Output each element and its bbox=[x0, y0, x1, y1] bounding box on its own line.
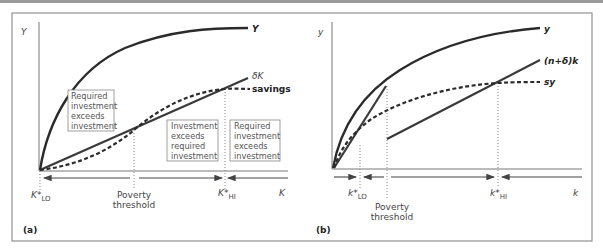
depreciation-line-label-a: δK bbox=[252, 71, 265, 81]
required-investment-line-b bbox=[387, 60, 540, 139]
svg-text:investment: investment bbox=[71, 121, 118, 131]
svg-text:exceeds: exceeds bbox=[234, 141, 268, 151]
svg-text:exceeds: exceeds bbox=[171, 131, 205, 141]
region-box-middle: Investment exceeds required investment bbox=[167, 120, 218, 161]
svg-text:investment: investment bbox=[234, 151, 281, 161]
x-axis-label-b: k bbox=[573, 188, 579, 198]
region-box-low: Required investment exceeds investment bbox=[68, 90, 118, 131]
svg-text:investment: investment bbox=[171, 151, 218, 161]
poverty-threshold-label2-b: threshold bbox=[371, 212, 413, 222]
savings-per-worker-label-b: sy bbox=[544, 77, 556, 87]
svg-text:investment: investment bbox=[234, 131, 281, 141]
poverty-trap-diagram: Y Y δK savings Required investment excee… bbox=[0, 0, 603, 252]
panel-label-b: (b) bbox=[316, 225, 331, 235]
k-hi-label-a: K*HI bbox=[218, 188, 236, 201]
savings-curve-label-a: savings bbox=[252, 84, 291, 94]
region-box-high: Required investment exceeds investment bbox=[230, 120, 281, 161]
x-axis-label-a: K bbox=[279, 188, 286, 198]
svg-text:Required: Required bbox=[234, 121, 270, 131]
output-per-worker-label-b: y bbox=[544, 24, 551, 34]
svg-text:investment: investment bbox=[71, 101, 118, 111]
svg-text:Investment: Investment bbox=[171, 121, 218, 131]
poverty-threshold-label-b: Poverty bbox=[375, 202, 410, 212]
y-axis-label-a: Y bbox=[21, 27, 28, 37]
k-hi-label-b: k*HI bbox=[490, 188, 507, 201]
poverty-threshold-label2-a: threshold bbox=[113, 200, 155, 210]
svg-text:exceeds: exceeds bbox=[71, 111, 105, 121]
output-curve-label-a: Y bbox=[252, 24, 260, 34]
svg-text:required: required bbox=[171, 141, 205, 151]
k-lo-label-a: K*LO bbox=[31, 190, 51, 203]
panel-b: y y (n+δ)k sy k*LO Poverty threshold k*H… bbox=[316, 22, 582, 235]
k-lo-label-b: k*LO bbox=[348, 188, 367, 201]
poverty-threshold-label-a: Poverty bbox=[117, 190, 152, 200]
panel-label-a: (a) bbox=[23, 225, 37, 235]
required-investment-label-b: (n+δ)k bbox=[544, 56, 579, 66]
output-per-worker-curve-b bbox=[333, 28, 540, 168]
svg-text:Required: Required bbox=[71, 91, 107, 101]
panel-a: Y Y δK savings Required investment excee… bbox=[21, 22, 291, 235]
savings-per-worker-curve-b bbox=[334, 82, 540, 168]
y-axis-label-b: y bbox=[317, 27, 324, 37]
